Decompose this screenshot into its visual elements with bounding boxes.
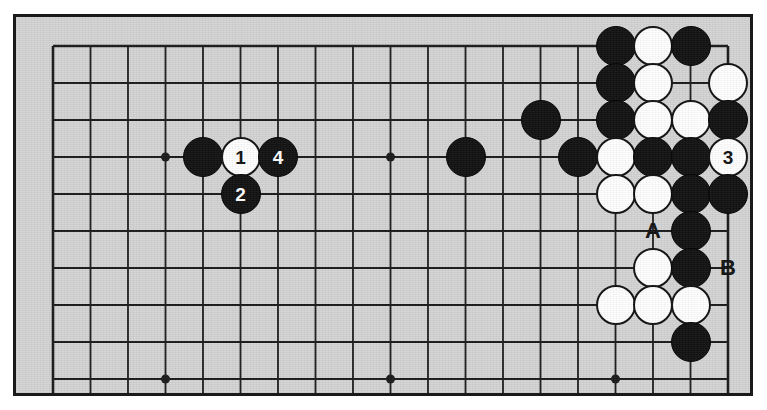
stone-black (671, 211, 711, 251)
stone-white (633, 63, 673, 103)
stone-black (558, 137, 598, 177)
move-number-label: 3 (723, 148, 734, 167)
stone-white (633, 26, 673, 66)
stone-white-move-3: 3 (708, 137, 748, 177)
stone-black (521, 100, 561, 140)
move-number-label: 1 (235, 148, 246, 167)
stone-black (671, 248, 711, 288)
stone-black (708, 100, 748, 140)
stone-white (671, 100, 711, 140)
stone-black (633, 137, 673, 177)
stone-white (596, 137, 636, 177)
stone-white-move-1: 1 (221, 137, 261, 177)
go-diagram-page: 1423AB (0, 0, 767, 410)
stone-black (671, 137, 711, 177)
stone-white (633, 285, 673, 325)
go-board: 1423AB (13, 14, 753, 396)
stone-black (183, 137, 223, 177)
stone-white (708, 63, 748, 103)
stone-black (671, 322, 711, 362)
stone-black (596, 26, 636, 66)
stone-white (671, 285, 711, 325)
stone-layer: 1423AB (16, 17, 753, 396)
stone-black-move-2: 2 (221, 174, 261, 214)
stone-white (596, 285, 636, 325)
stone-black (596, 100, 636, 140)
stone-black (708, 174, 748, 214)
stone-black-move-4: 4 (258, 137, 298, 177)
stone-white (633, 100, 673, 140)
stone-white (633, 174, 673, 214)
move-number-label: 4 (273, 148, 284, 167)
stone-black (446, 137, 486, 177)
point-label-b: B (708, 248, 748, 288)
stone-white (596, 174, 636, 214)
stone-black (671, 26, 711, 66)
move-number-label: 2 (235, 185, 246, 204)
stone-white (633, 248, 673, 288)
stone-black (596, 63, 636, 103)
point-label-a: A (633, 211, 673, 251)
stone-black (671, 174, 711, 214)
